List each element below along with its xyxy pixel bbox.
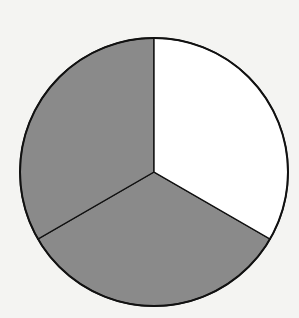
fraction-diagram — [0, 0, 299, 318]
fraction-circle — [0, 0, 299, 318]
